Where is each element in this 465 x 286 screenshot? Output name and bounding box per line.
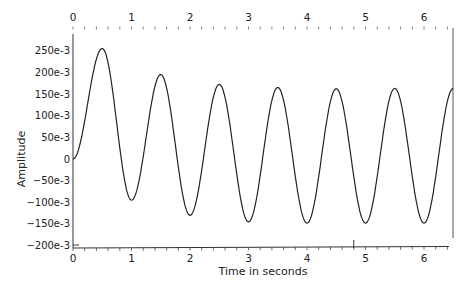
x-tick-label: 6 — [421, 252, 428, 264]
x-axis-label: Time in seconds — [218, 265, 308, 278]
top-x-tick-label: 5 — [362, 11, 369, 23]
axes: 00112233445566250e-3200e-3150e-3100e-350… — [26, 11, 453, 264]
y-tick-label: 250e-3 — [35, 45, 70, 56]
y-tick-label: −200e-3 — [26, 240, 70, 251]
x-tick-label: 1 — [128, 252, 135, 264]
x-axis-line — [73, 247, 449, 249]
y-tick-label: 0 — [64, 154, 70, 165]
y-tick-label: 50e-3 — [41, 132, 70, 143]
top-x-tick-label: 0 — [70, 11, 77, 23]
x-tick-label: 3 — [245, 252, 252, 264]
y-tick-label: 100e-3 — [35, 110, 70, 121]
amplitude-line — [73, 49, 453, 224]
x-tick-label: 5 — [362, 252, 369, 264]
y-tick-label: −150e-3 — [26, 218, 70, 229]
y-axis-label: Amplitude — [15, 131, 28, 188]
data-series — [73, 49, 453, 224]
top-x-tick-label: 1 — [128, 11, 135, 23]
top-x-tick-label: 6 — [421, 11, 428, 23]
chart-svg: 00112233445566250e-3200e-3150e-3100e-350… — [0, 0, 465, 286]
top-x-tick-label: 4 — [304, 11, 311, 23]
top-x-tick-label: 3 — [245, 11, 252, 23]
y-tick-label: −50e-3 — [33, 175, 70, 186]
amplitude-time-chart: 00112233445566250e-3200e-3150e-3100e-350… — [0, 0, 465, 286]
x-tick-label: 2 — [187, 252, 194, 264]
x-tick-label: 4 — [304, 252, 311, 264]
y-tick-label: 200e-3 — [35, 67, 70, 78]
y-tick-label: −100e-3 — [26, 197, 70, 208]
x-tick-label: 0 — [70, 252, 77, 264]
top-x-tick-label: 2 — [187, 11, 194, 23]
y-tick-label: 150e-3 — [35, 89, 70, 100]
